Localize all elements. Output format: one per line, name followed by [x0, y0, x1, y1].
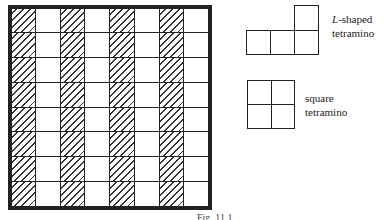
board-cell [135, 58, 160, 83]
l-tile-3 [294, 30, 319, 55]
l-tile-2 [270, 30, 295, 55]
board-cell [135, 33, 160, 58]
board-cell [110, 108, 135, 133]
board-cell [11, 108, 36, 133]
board-cell [11, 33, 36, 58]
board-cell [135, 157, 160, 182]
board-cell [61, 58, 86, 83]
l-shaped-label: L-shaped tetramino [332, 12, 374, 40]
board-cell [85, 33, 110, 58]
board-cell [110, 33, 135, 58]
board-cell [110, 8, 135, 33]
l-tile-4 [294, 5, 319, 31]
board-cell [61, 83, 86, 108]
board-cell [36, 157, 61, 182]
board-cell [135, 132, 160, 157]
board-grid [11, 8, 209, 207]
board-cell [61, 8, 86, 33]
board-cell [36, 58, 61, 83]
board-cell [110, 132, 135, 157]
square-label-line2: tetramino [305, 106, 347, 118]
board-cell [160, 157, 185, 182]
board-cell [135, 108, 160, 133]
board-cell [184, 108, 209, 133]
board-cell [85, 8, 110, 33]
board-cell [11, 58, 36, 83]
board-cell [85, 108, 110, 133]
board-cell [85, 132, 110, 157]
board-cell [184, 58, 209, 83]
board-cell [135, 8, 160, 33]
sq-tile-4 [271, 104, 295, 129]
board-cell [11, 182, 36, 207]
sq-tile-3 [247, 104, 272, 129]
board-cell [160, 8, 185, 33]
board-cell [36, 33, 61, 58]
board-cell [36, 8, 61, 33]
board-cell [184, 33, 209, 58]
board-cell [184, 83, 209, 108]
square-label: square tetramino [305, 91, 347, 119]
l-label-rest: -shaped [338, 13, 372, 25]
board-cell [160, 108, 185, 133]
l-tile-1 [246, 30, 271, 55]
figure-caption: Fig. 11.1 [197, 212, 232, 220]
board-cell [11, 83, 36, 108]
board-cell [61, 132, 86, 157]
board-cell [11, 132, 36, 157]
sq-tile-1 [247, 80, 272, 105]
board-cell [184, 182, 209, 207]
board-cell [11, 8, 36, 33]
square-label-line1: square [305, 92, 334, 104]
board-cell [160, 33, 185, 58]
board-cell [184, 157, 209, 182]
board-cell [160, 182, 185, 207]
checkerboard [8, 5, 212, 210]
sq-tile-2 [271, 80, 295, 105]
board-cell [85, 83, 110, 108]
board-cell [11, 157, 36, 182]
board-cell [61, 157, 86, 182]
board-cell [85, 58, 110, 83]
board-cell [36, 83, 61, 108]
board-cell [110, 182, 135, 207]
board-cell [110, 58, 135, 83]
board-cell [36, 132, 61, 157]
board-cell [160, 132, 185, 157]
board-cell [184, 132, 209, 157]
board-cell [135, 83, 160, 108]
board-cell [61, 182, 86, 207]
board-cell [36, 108, 61, 133]
board-cell [85, 157, 110, 182]
board-cell [184, 8, 209, 33]
board-cell [85, 182, 110, 207]
board-cell [110, 157, 135, 182]
board-cell [61, 108, 86, 133]
l-label-line2: tetramino [332, 27, 374, 39]
board-cell [110, 83, 135, 108]
board-cell [135, 182, 160, 207]
board-cell [160, 58, 185, 83]
board-cell [160, 83, 185, 108]
board-cell [61, 33, 86, 58]
board-cell [36, 182, 61, 207]
